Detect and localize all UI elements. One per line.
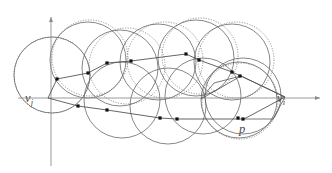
vertex-marker-7: [238, 74, 241, 77]
point-label-p-base: p: [239, 122, 245, 136]
disk-solid-2: [82, 30, 158, 106]
marked-points-group: [55, 52, 244, 120]
upper-polyline-chain: [48, 54, 285, 98]
vertex-label-vj-base: v: [25, 91, 31, 105]
point-label-p: p: [239, 123, 245, 136]
vertex-marker-10: [158, 116, 161, 119]
vertex-label-vi-subscript: i: [283, 97, 285, 107]
vertex-marker-12: [236, 116, 239, 119]
geometric-figure: vj vi p: [0, 0, 332, 173]
vertex-marker-1: [86, 71, 89, 74]
vertex-label-vi: vi: [277, 92, 285, 106]
figure-canvas: [0, 0, 332, 173]
vertex-marker-6: [230, 70, 233, 73]
vertex-marker-13: [241, 117, 244, 120]
circle-group-dotted: [14, 18, 278, 139]
vertex-label-vj: vj: [25, 92, 33, 106]
vertex-marker-8: [76, 104, 79, 107]
vertex-marker-4: [184, 52, 187, 55]
vertex-marker-0: [55, 77, 58, 80]
vertex-marker-5: [197, 58, 200, 61]
vertex-label-vj-subscript: j: [31, 97, 33, 107]
vertex-marker-2: [105, 61, 108, 64]
vertex-marker-9: [105, 108, 108, 111]
vertex-marker-3: [129, 59, 132, 62]
vertex-label-vi-base: v: [277, 91, 283, 105]
vertex-marker-11: [175, 117, 178, 120]
lower-polyline-chain: [48, 97, 285, 119]
